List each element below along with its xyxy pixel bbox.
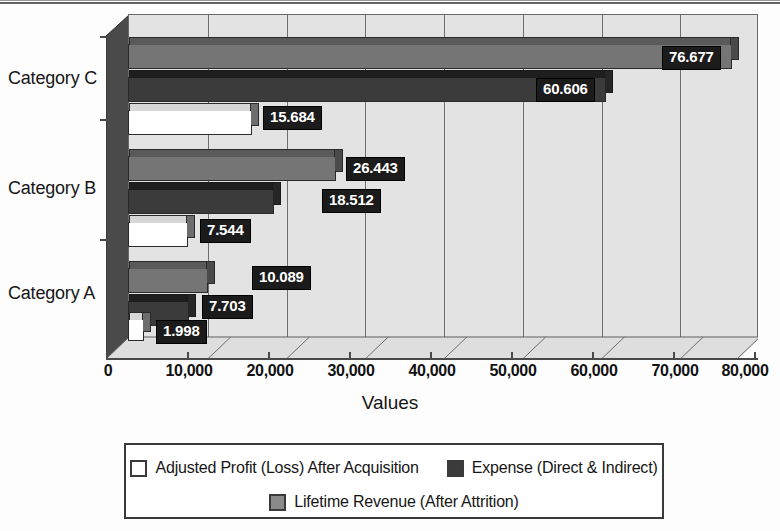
data-label-category-b-lifetime-revenue: 26.443 [346,157,405,181]
chart-page: 76.677 60.606 15.684 26.443 18.512 7.544… [0,0,780,531]
legend-swatch-icon-lifetime-revenue [269,494,286,511]
bar-category-c-expense[interactable] [128,77,606,102]
x-axis-tick-50000 [511,352,513,360]
data-label-category-a-lifetime-revenue: 10.089 [252,266,311,290]
x-axis-tick-60000 [592,352,594,360]
x-axis-tick-40000 [430,352,432,360]
legend-row-2: Lifetime Revenue (After Attrition) [126,485,662,519]
bar-top-face [129,37,731,45]
bar-category-b-adjusted-profit[interactable] [128,222,188,247]
x-axis-tick-70000 [673,352,675,360]
bar-top-face [129,261,207,269]
legend-label-expense: Expense (Direct & Indirect) [472,459,658,477]
category-label-a: Category A [8,283,95,304]
bar-category-b-lifetime-revenue[interactable] [128,156,336,181]
bar-top-face [129,312,143,320]
x-axis-tick-0 [106,352,108,360]
bar-side-face [207,261,215,284]
bar-category-b-expense[interactable] [128,189,274,214]
bar-side-face [143,312,151,332]
bar-side-face [188,294,196,317]
x-axis-label-10000: 10,000 [165,362,212,380]
x-axis-tick-30000 [349,352,351,360]
data-label-category-c-expense: 60.606 [536,78,595,102]
category-label-b: Category B [8,178,96,199]
x-axis-tick-10000 [187,352,189,360]
x-axis-label-80000: 80,000 [721,362,768,380]
legend-label-adjusted-profit: Adjusted Profit (Loss) After Acquisition [155,459,418,477]
x-axis-label-50000: 50,000 [489,362,536,380]
bar-side-face [273,182,281,205]
bar-top-face [129,149,335,157]
bar-top-face [129,215,187,223]
plot-left-wall [106,14,130,358]
plot-area: 76.677 60.606 15.684 26.443 18.512 7.544… [106,14,758,358]
bar-category-c-adjusted-profit[interactable] [128,110,252,135]
data-label-category-b-expense: 18.512 [322,189,381,213]
x-axis-label-30000: 30,000 [327,362,374,380]
x-axis-label-40000: 40,000 [408,362,455,380]
bar-category-c-lifetime-revenue[interactable] [128,44,732,69]
legend-row-1: Adjusted Profit (Loss) After Acquisition… [126,451,662,485]
x-axis-title: Values [0,392,780,414]
legend-swatch-icon-adjusted-profit [130,460,147,477]
data-label-category-a-adjusted-profit: 1.998 [156,320,207,344]
bar-top-face [129,70,605,78]
x-axis-label-20000: 20,000 [246,362,293,380]
chart-legend: Adjusted Profit (Loss) After Acquisition… [124,443,664,519]
legend-item-lifetime-revenue[interactable]: Lifetime Revenue (After Attrition) [269,493,518,511]
y-axis-tick-c-b [100,119,108,121]
y-axis-tick-top [100,36,108,38]
bar-side-face [335,149,343,172]
bar-top-face [129,182,273,190]
y-axis-tick-b-a [100,239,108,241]
x-axis-tick-80000 [754,352,756,360]
bar-side-face [187,215,195,238]
title-cutoff-rule [0,2,780,4]
bar-side-face [731,37,739,60]
category-label-c: Category C [8,68,97,89]
legend-item-expense[interactable]: Expense (Direct & Indirect) [447,459,658,477]
bar-side-face [605,70,613,93]
x-axis-label-70000: 70,000 [651,362,698,380]
legend-item-adjusted-profit[interactable]: Adjusted Profit (Loss) After Acquisition [130,459,418,477]
data-label-category-b-adjusted-profit: 7.544 [200,219,251,243]
bar-top-face [129,294,188,302]
bar-category-a-adjusted-profit[interactable] [128,319,144,341]
data-label-category-a-expense: 7.703 [202,295,253,319]
x-axis-line [106,358,758,360]
bar-top-face [129,103,251,111]
data-label-category-c-adjusted-profit: 15.684 [263,106,322,130]
data-label-category-c-lifetime-revenue: 76.677 [662,46,721,70]
legend-swatch-icon-expense [447,460,464,477]
legend-label-lifetime-revenue: Lifetime Revenue (After Attrition) [294,493,518,511]
x-axis-label-60000: 60,000 [570,362,617,380]
bar-category-a-lifetime-revenue[interactable] [128,268,208,293]
x-axis-label-0: 0 [104,362,113,380]
bar-side-face [251,103,259,126]
title-cutoff-rule-thin [0,0,780,1]
x-axis-tick-20000 [268,352,270,360]
